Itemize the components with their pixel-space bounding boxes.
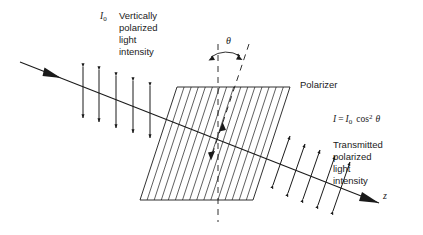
incident-line-4: intensity — [119, 46, 158, 58]
transmitted-line-4: intensity — [333, 175, 383, 187]
incident-polarization-arrows — [83, 67, 150, 138]
theta-arc-path — [211, 52, 240, 57]
angle-theta-arc — [209, 52, 243, 60]
polarizer-label: Polarizer — [300, 79, 338, 91]
transmitted-line-1: Transmitted — [333, 139, 383, 151]
transmitted-arrow — [273, 136, 290, 185]
transmitted-line-3: light — [333, 163, 383, 175]
z-axis-label: z — [383, 190, 387, 202]
incident-intensity-symbol: I0 — [100, 10, 107, 25]
incident-symbol-subscript: 0 — [103, 15, 107, 23]
incident-light-label: Vertically polarized light intensity — [119, 10, 158, 58]
equation-theta: θ — [372, 114, 380, 124]
incident-line-2: polarized — [119, 22, 158, 34]
malus-law-equation: I=I0cos2θ — [333, 111, 380, 128]
incident-direction-arrowhead — [43, 68, 62, 79]
transmitted-light-label: Transmitted polarized light intensity — [333, 139, 383, 187]
polarizer-sheet — [140, 87, 290, 200]
equation-equals: = — [336, 114, 345, 124]
z-axis-arrowhead — [359, 192, 379, 203]
transmitted-line-2: polarized — [333, 151, 383, 163]
equation-cos: cos — [352, 114, 369, 124]
theta-angle-label: θ — [226, 35, 231, 47]
incident-line-1: Vertically — [119, 10, 158, 22]
polarization-diagram: I0 Vertically polarized light intensity … — [0, 0, 423, 235]
incident-line-3: light — [119, 34, 158, 46]
